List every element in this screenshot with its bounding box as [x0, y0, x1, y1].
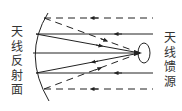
feed-label-char: 馈 — [163, 60, 177, 75]
reflector-label-char: 反 — [10, 54, 24, 69]
feed-label-char: 线 — [163, 46, 177, 61]
reflector-label-char: 线 — [10, 40, 24, 55]
reflector-label-char: 面 — [10, 83, 24, 98]
dashed-reflect-top — [44, 18, 140, 53]
feed-label-char: 源 — [163, 75, 177, 90]
dashed-reflect-bottom — [44, 53, 140, 89]
arrow-dashed-reflect-bottom — [95, 68, 100, 70]
arrow-solid-reflect-top — [96, 45, 101, 46]
arrow-solid-reflect-bottom — [93, 61, 98, 62]
reflector-label: 天 线 反 射 面 — [10, 25, 24, 98]
feed-label-char: 天 — [163, 31, 177, 46]
solid-reflect-bottom — [36, 53, 140, 73]
arrow-dashed-reflect-top — [101, 39, 106, 41]
parabolic-antenna-diagram — [0, 0, 182, 111]
reflector-label-char: 射 — [10, 69, 24, 84]
solid-reflect-top — [36, 34, 140, 53]
feed-label: 天 线 馈 源 — [163, 31, 177, 89]
reflector-label-char: 天 — [10, 25, 24, 40]
